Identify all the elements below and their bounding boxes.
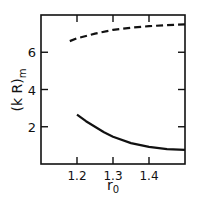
series-line-dashed: [70, 24, 185, 41]
y-axis-label: (k R)m: [9, 69, 28, 112]
x-tick-label: 1.4: [139, 169, 158, 183]
plot-frame: [41, 15, 185, 164]
x-tick-label: 1.2: [67, 169, 86, 183]
series-line-solid: [77, 115, 185, 150]
y-tick-label: 2: [28, 120, 36, 135]
y-tick-label: 4: [28, 83, 36, 98]
y-tick-label: 6: [28, 45, 36, 60]
chart: 1.21.31.4246 r0 (k R)m: [0, 0, 201, 203]
